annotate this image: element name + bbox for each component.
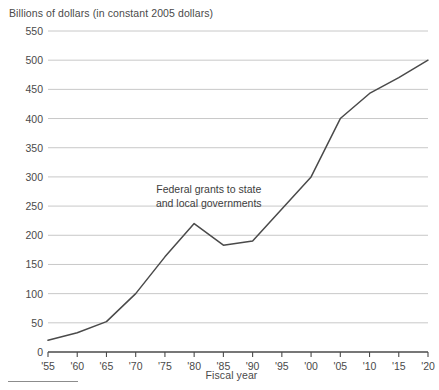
y-axis-tick-label: 100: [1, 288, 43, 300]
annotation-line-2: and local governments: [156, 197, 262, 209]
y-axis-tick-label: 250: [1, 200, 43, 212]
y-axis-tick-label: 50: [1, 317, 43, 329]
y-axis-tick-label: 300: [1, 171, 43, 183]
x-axis-title: Fiscal year: [0, 369, 439, 381]
y-axis-tick-label: 350: [1, 142, 43, 154]
footnote-separator-rule: [8, 381, 78, 382]
gridlines-group: [48, 31, 428, 323]
x-axis-title-text: Fiscal year: [206, 369, 258, 381]
series-annotation-label: Federal grants to state and local govern…: [137, 183, 281, 210]
y-axis-tick-label: 550: [1, 25, 43, 37]
y-axis-tick-label: 450: [1, 83, 43, 95]
y-axis-tick-label: 500: [1, 54, 43, 66]
chart-container: Billions of dollars (in constant 2005 do…: [0, 0, 439, 390]
y-axis-tick-label: 0: [1, 346, 43, 358]
y-axis-tick-label: 200: [1, 229, 43, 241]
y-axis-tick-label: 400: [1, 113, 43, 125]
annotation-line-1: Federal grants to state: [156, 183, 261, 195]
y-axis-tick-label: 150: [1, 258, 43, 270]
